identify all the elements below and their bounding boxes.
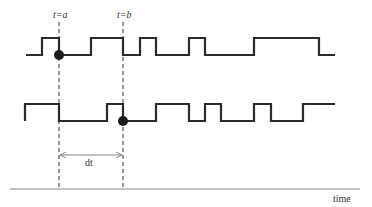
- marker-label-b: t=b: [117, 9, 132, 20]
- event-point-a: [54, 50, 64, 60]
- marker-label-a: t=a: [53, 9, 68, 20]
- timing-diagram: t=a t=b dt time: [0, 0, 372, 207]
- dt-label: dt: [85, 157, 93, 168]
- signal-1-waveform: [26, 38, 335, 55]
- event-point-b: [118, 116, 128, 126]
- time-axis-label: time: [333, 193, 351, 204]
- signal-2-waveform: [25, 104, 335, 121]
